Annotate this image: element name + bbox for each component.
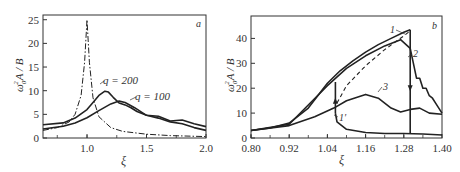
label-curve-1: 1 — [390, 24, 395, 35]
x-tick-label: 1.16 — [356, 142, 376, 154]
curve-line — [335, 113, 442, 135]
x-tick-label: 0.80 — [241, 142, 261, 154]
x-tick-label: 1.28 — [394, 142, 414, 154]
x-tick-label: 2.0 — [199, 142, 213, 154]
x-axis-label-a: ξ — [121, 154, 127, 168]
y-tick-label: 0 — [34, 132, 40, 144]
y-tick-label: 30 — [236, 57, 248, 69]
label-q200: q = 200 — [103, 74, 138, 86]
y-tick-label: 10 — [28, 85, 40, 97]
y-tick-label: 15 — [28, 61, 40, 73]
label-curve-2: 2 — [413, 48, 418, 59]
y-tick-label: 5 — [34, 108, 40, 120]
panel-label-b: b — [432, 20, 437, 31]
panel-label-a: a — [196, 18, 201, 29]
x-tick-label: 0.92 — [280, 142, 299, 154]
y-tick-label: 10 — [236, 107, 248, 119]
axis-ticks-b: 0102030400.800.921.041.161.281.40 — [236, 32, 452, 154]
y-tick-label: 25 — [28, 14, 40, 26]
arrow-down-icon — [408, 85, 413, 91]
x-tick-label: 1.0 — [80, 142, 94, 154]
panel-a: 05101520251.01.52.0 a q = 200 q = 100 ξ … — [12, 14, 213, 168]
label-curve-3: 3 — [382, 81, 388, 92]
plot-frame-b — [251, 16, 442, 138]
curve-line — [43, 91, 206, 126]
x-tick-label: 1.04 — [318, 142, 338, 154]
x-axis-label-b: ξ — [339, 153, 345, 167]
y-axis-label-a: ω02A / B — [12, 58, 28, 92]
arrow-up-icon — [333, 98, 338, 104]
svg-text:ω02A / B: ω02A / B — [12, 58, 28, 92]
y-tick-label: 40 — [236, 32, 248, 44]
x-tick-label: 1.5 — [140, 142, 154, 154]
label-curve-1-prime: 1′ — [339, 112, 347, 123]
label-q100: q = 100 — [135, 90, 170, 102]
x-tick-label: 1.40 — [432, 142, 452, 154]
panel-b: 0102030400.800.921.041.161.281.40 b 1 2 … — [223, 16, 452, 167]
curves-b — [251, 30, 442, 135]
y-tick-label: 20 — [28, 37, 40, 49]
figure: 05101520251.01.52.0 a q = 200 q = 100 ξ … — [0, 0, 460, 172]
